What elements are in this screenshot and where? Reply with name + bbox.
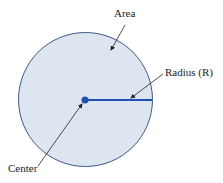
- radius-label: Radius (R): [165, 66, 213, 78]
- center-dot: [82, 97, 89, 104]
- circle-diagram: [0, 0, 223, 183]
- center-label: Center: [8, 162, 37, 174]
- area-label: Area: [114, 7, 135, 19]
